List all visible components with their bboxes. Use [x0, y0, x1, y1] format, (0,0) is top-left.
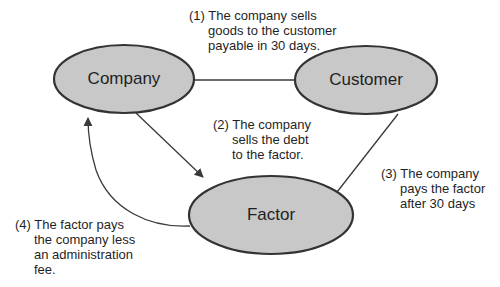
annotation-step-2: (2) The company sells the debt to the fa…	[213, 117, 311, 162]
node-company-label: Company	[88, 69, 161, 89]
step-3-line-3: after 30 days	[381, 196, 485, 211]
annotation-step-1: (1) The company sells goods to the custo…	[189, 8, 337, 53]
node-factor-label: Factor	[247, 205, 295, 225]
factoring-diagram: Company Customer Factor (1) The company …	[0, 0, 500, 287]
annotation-step-3: (3) The company pays the factor after 30…	[381, 166, 485, 211]
annotation-step-4: (4) The factor pays the company less an …	[15, 217, 135, 277]
step-2-number: (2)	[213, 117, 229, 132]
step-4-line-3: an administration	[15, 247, 135, 262]
step-1-number: (1)	[189, 8, 205, 23]
step-3-line-1: The company	[400, 166, 479, 181]
arrow-company-to-factor	[136, 113, 203, 177]
step-2-line-3: to the factor.	[213, 147, 311, 162]
step-1-line-3: payable in 30 days.	[189, 38, 337, 53]
node-customer-label: Customer	[329, 70, 403, 90]
step-2-line-2: sells the debt	[213, 132, 311, 147]
step-3-number: (3)	[381, 166, 397, 181]
step-1-line-2: goods to the customer	[189, 23, 337, 38]
step-4-line-2: the company less	[15, 232, 135, 247]
step-4-line-1: The factor pays	[34, 217, 124, 232]
step-4-line-4: fee.	[15, 262, 135, 277]
step-4-number: (4)	[15, 217, 31, 232]
step-2-line-1: The company	[232, 117, 311, 132]
arrow-factor-to-company	[88, 118, 190, 226]
step-3-line-2: pays the factor	[381, 181, 485, 196]
step-1-line-1: The company sells	[208, 8, 316, 23]
